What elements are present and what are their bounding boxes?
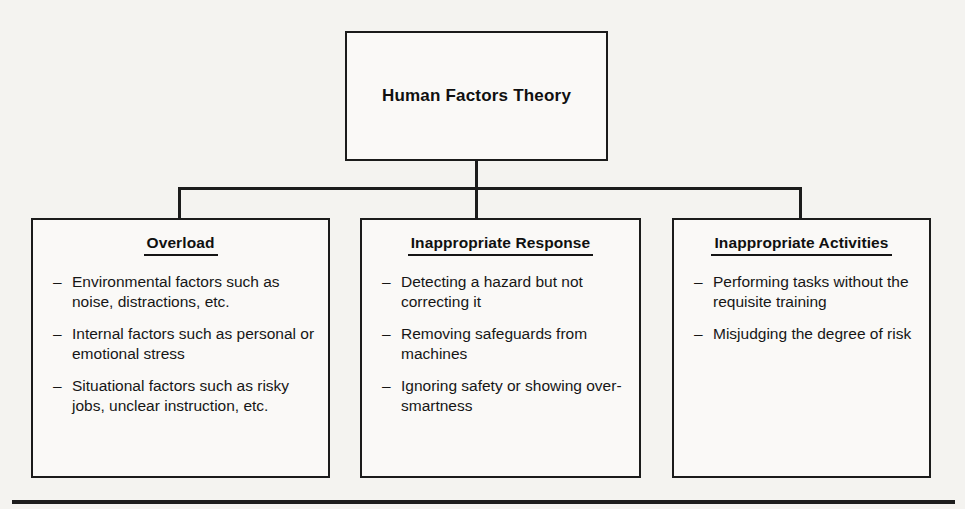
list-item: – Misjudging the degree of risk — [694, 324, 917, 344]
dash-icon: – — [382, 272, 391, 292]
diagram-canvas: Human Factors Theory Overload – Environm… — [0, 0, 965, 509]
list-item-text: Internal factors such as personal or emo… — [72, 325, 314, 362]
list-item: – Detecting a hazard but not correcting … — [382, 272, 627, 311]
root-node-human-factors-theory: Human Factors Theory — [345, 31, 608, 161]
list-item: – Ignoring safety or showing over-smartn… — [382, 376, 627, 415]
branch-node-inappropriate-response: Inappropriate Response – Detecting a haz… — [360, 218, 641, 478]
branch-node-overload: Overload – Environmental factors such as… — [31, 218, 330, 478]
root-node-title: Human Factors Theory — [382, 86, 571, 106]
dash-icon: – — [53, 324, 62, 344]
connector-leg-inappropriate-activities — [799, 187, 802, 219]
branch-heading-overload-text: Overload — [144, 234, 218, 256]
connector-leg-overload — [178, 187, 181, 219]
list-item: – Performing tasks without the requisite… — [694, 272, 917, 311]
branch-heading-inappropriate-response: Inappropriate Response — [372, 234, 629, 256]
list-item-text: Detecting a hazard but not correcting it — [401, 273, 583, 310]
dash-icon: – — [382, 324, 391, 344]
list-item: – Internal factors such as personal or e… — [53, 324, 316, 363]
dash-icon: – — [382, 376, 391, 396]
dash-icon: – — [694, 324, 703, 344]
branch-heading-inappropriate-response-text: Inappropriate Response — [408, 234, 594, 256]
connector-bus-horizontal — [178, 187, 802, 190]
connector-leg-inappropriate-response — [475, 187, 478, 219]
branch-node-inappropriate-activities: Inappropriate Activities – Performing ta… — [672, 218, 931, 478]
dash-icon: – — [53, 272, 62, 292]
branch-bullet-list-inappropriate-activities: – Performing tasks without the requisite… — [684, 272, 919, 344]
list-item: – Removing safeguards from machines — [382, 324, 627, 363]
footer-divider-rule — [12, 500, 955, 504]
list-item: – Environmental factors such as noise, d… — [53, 272, 316, 311]
list-item-text: Situational factors such as risky jobs, … — [72, 377, 289, 414]
list-item-text: Performing tasks without the requisite t… — [713, 273, 909, 310]
branch-bullet-list-overload: – Environmental factors such as noise, d… — [43, 272, 318, 415]
list-item-text: Misjudging the degree of risk — [713, 325, 911, 342]
list-item: – Situational factors such as risky jobs… — [53, 376, 316, 415]
dash-icon: – — [694, 272, 703, 292]
connector-stem-vertical — [475, 161, 478, 189]
list-item-text: Environmental factors such as noise, dis… — [72, 273, 280, 310]
list-item-text: Removing safeguards from machines — [401, 325, 587, 362]
branch-heading-overload: Overload — [43, 234, 318, 256]
branch-heading-inappropriate-activities-text: Inappropriate Activities — [711, 234, 891, 256]
dash-icon: – — [53, 376, 62, 396]
branch-heading-inappropriate-activities: Inappropriate Activities — [684, 234, 919, 256]
branch-bullet-list-inappropriate-response: – Detecting a hazard but not correcting … — [372, 272, 629, 415]
list-item-text: Ignoring safety or showing over-smartnes… — [401, 377, 622, 414]
